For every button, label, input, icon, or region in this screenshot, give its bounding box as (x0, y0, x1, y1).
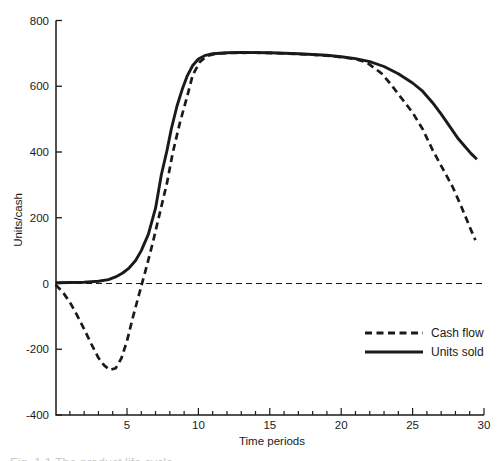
legend-item-units-sold: Units sold (365, 343, 484, 363)
x-tick-label: 15 (263, 419, 276, 431)
y-tick-label: 200 (30, 212, 49, 224)
dashed-line-swatch-icon (365, 330, 423, 336)
y-tick-label: 400 (30, 146, 49, 158)
x-tick-label: 10 (192, 419, 205, 431)
x-tick-label: 20 (335, 419, 348, 431)
x-tick-label: 5 (124, 419, 130, 431)
y-tick-label: 800 (30, 15, 49, 27)
units-sold-curve (56, 52, 477, 282)
legend-label-units-sold: Units sold (431, 345, 484, 359)
legend-label-cash-flow: Cash flow (431, 326, 484, 340)
y-tick-label: 600 (30, 80, 49, 92)
y-axis-title: Units/cash (12, 160, 28, 280)
legend-item-cash-flow: Cash flow (365, 323, 484, 343)
x-axis-title: Time periods (212, 435, 332, 447)
x-tick-label: 25 (406, 419, 419, 431)
y-tick-label: 0 (43, 278, 49, 290)
solid-line-swatch-icon (365, 349, 423, 355)
figure: 8006004002000-200-40051015202530 Units/c… (0, 0, 499, 461)
x-tick-label: 30 (478, 419, 491, 431)
clipped-caption: Fig. 1.1 The product life cycle (10, 456, 492, 461)
y-tick-label: -200 (26, 343, 49, 355)
chart-canvas: 8006004002000-200-40051015202530 (0, 0, 499, 461)
legend: Cash flow Units sold (365, 323, 484, 362)
y-tick-label: -400 (26, 409, 49, 421)
